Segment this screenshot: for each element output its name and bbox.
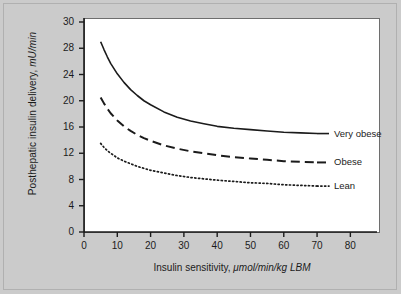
x-tick-label: 60 <box>271 241 297 251</box>
curve-obese <box>101 97 317 162</box>
y-tick-label: 30 <box>50 17 74 27</box>
x-tick-label: 80 <box>337 241 363 251</box>
x-tick-label: 70 <box>304 241 330 251</box>
data-curves <box>101 42 317 186</box>
series-label-obese: Obese <box>334 156 362 167</box>
series-label-lean: Lean <box>334 180 355 191</box>
x-tick-label: 20 <box>138 241 164 251</box>
y-tick-label: 20 <box>50 96 74 106</box>
x-tick-label: 40 <box>204 241 230 251</box>
y-tick-label: 16 <box>50 122 74 132</box>
curve-lean <box>101 143 317 186</box>
x-tick-label: 10 <box>104 241 130 251</box>
x-axis-title-units: μmol/min/kg LBM <box>233 262 310 273</box>
y-axis-title-main: Posthepatic insulin delivery, <box>27 67 38 195</box>
series-label-very-obese: Very obese <box>334 128 382 139</box>
y-tick-label: 24 <box>50 70 74 80</box>
y-axis-title-units: mU/min <box>27 32 38 67</box>
y-axis-title: Posthepatic insulin delivery, mU/min <box>27 9 38 219</box>
x-axis-title: Insulin sensitivity, μmol/min/kg LBM <box>84 262 380 273</box>
curve-very-obese <box>101 42 317 134</box>
legend-line-samples <box>317 134 329 187</box>
x-tick-label: 30 <box>171 241 197 251</box>
y-tick-label: 12 <box>50 148 74 158</box>
figure-container: 302824201612840 01020304050607080 Very o… <box>0 0 401 294</box>
y-tick-label: 8 <box>50 175 74 185</box>
y-tick-label: 0 <box>50 227 74 237</box>
x-tick-label: 0 <box>71 241 97 251</box>
y-tick-label: 4 <box>50 201 74 211</box>
y-tick-label: 28 <box>50 43 74 53</box>
tick-marks <box>79 22 350 237</box>
x-axis-title-main: Insulin sensitivity, <box>153 262 233 273</box>
x-tick-label: 50 <box>237 241 263 251</box>
axes-lines <box>84 18 377 232</box>
